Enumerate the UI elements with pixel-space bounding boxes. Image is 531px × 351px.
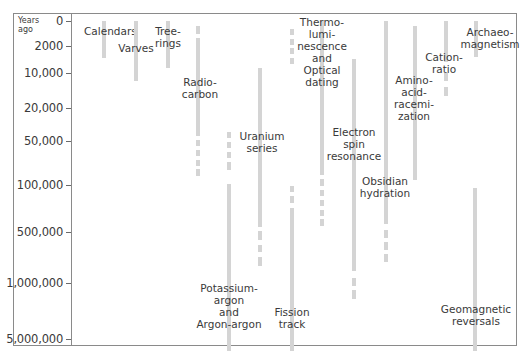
method-label-thermoluminescence-and-optical-dating: Thermo-lumi-nescenceandOpticaldating <box>297 16 347 88</box>
range-bar-uranium-series <box>258 257 262 266</box>
method-label-varves: Varves <box>118 42 153 54</box>
method-label-cation-ratio: Cation-ratio <box>425 51 463 75</box>
range-bar-potassium-argon-and-argon-argon <box>227 142 231 148</box>
method-label-line: Geomagnetic <box>441 303 511 315</box>
range-bar-obsidian-hydration <box>384 230 388 238</box>
method-label-line: magnetism <box>460 38 519 50</box>
method-label-line: resonance <box>327 150 381 162</box>
range-bar-thermoluminescence-and-optical-dating <box>320 210 324 216</box>
method-label-radiocarbon: Radio-carbon <box>182 76 218 100</box>
range-bar-uranium-series <box>258 245 262 252</box>
method-label-electron-spin-resonance: Electronspinresonance <box>327 126 381 162</box>
method-label-line: Tree- <box>155 25 181 37</box>
range-bar-potassium-argon-and-argon-argon <box>227 162 231 170</box>
range-bar-cation-ratio <box>444 87 448 96</box>
method-label-potassium-argon-and-argon-argon: Potassium-argonandArgon-argon <box>196 282 261 330</box>
range-bar-fission-track <box>290 186 294 192</box>
method-label-line: acid- <box>394 86 434 98</box>
method-label-line: rings <box>155 37 181 49</box>
method-label-line: Fission <box>274 306 309 318</box>
range-bar-thermoluminescence-and-optical-dating <box>320 179 324 186</box>
range-bar-thermoluminescence-and-optical-dating <box>320 190 324 196</box>
method-label-line: Uranium <box>240 130 285 142</box>
range-bar-electron-spin-resonance <box>352 290 356 299</box>
method-label-line: ratio <box>425 63 463 75</box>
method-label-calendars: Calendars <box>84 25 137 37</box>
method-label-line: and <box>297 52 347 64</box>
method-label-line: argon <box>196 294 261 306</box>
method-label-archaeomagnetism: Archaeo-magnetism <box>460 26 519 50</box>
method-label-geomagnetic-reversals: Geomagneticreversals <box>441 303 511 327</box>
range-bar-electron-spin-resonance <box>352 59 356 271</box>
method-label-line: lumi- <box>297 28 347 40</box>
range-bar-potassium-argon-and-argon-argon <box>227 152 231 158</box>
method-label-line: Varves <box>118 42 153 54</box>
range-bar-obsidian-hydration <box>384 254 388 262</box>
range-bar-electron-spin-resonance <box>352 278 356 286</box>
range-bar-fission-track <box>290 196 294 203</box>
range-bar-thermoluminescence-and-optical-dating-early-dashes <box>290 48 294 54</box>
method-label-line: series <box>240 142 285 154</box>
method-label-line: hydration <box>360 187 410 199</box>
range-bar-potassium-argon-and-argon-argon <box>227 132 231 138</box>
method-label-line: Thermo- <box>297 16 347 28</box>
method-label-line: nescence <box>297 40 347 52</box>
method-label-line: racemi- <box>394 98 434 110</box>
method-label-line: Obsidian <box>360 175 410 187</box>
range-bar-thermoluminescence-and-optical-dating-early-dashes <box>290 29 294 35</box>
method-label-obsidian-hydration: Obsidianhydration <box>360 175 410 199</box>
range-bar-uranium-series <box>258 231 262 240</box>
range-bar-obsidian-hydration <box>384 242 388 250</box>
method-label-line: spin <box>327 138 381 150</box>
range-bar-radiocarbon <box>196 150 200 156</box>
method-label-tree-rings: Tree-rings <box>155 25 181 49</box>
method-label-line: Potassium- <box>196 282 261 294</box>
range-bar-radiocarbon <box>196 169 200 176</box>
method-label-line: track <box>274 318 309 330</box>
range-bar-thermoluminescence-and-optical-dating <box>320 219 324 226</box>
method-label-line: Amino- <box>394 74 434 86</box>
method-label-line: carbon <box>182 88 218 100</box>
range-bar-thermoluminescence-and-optical-dating <box>320 200 324 206</box>
method-label-fission-track: Fissiontrack <box>274 306 309 330</box>
method-label-line: and <box>196 306 261 318</box>
method-label-line: Radio- <box>182 76 218 88</box>
range-bar-radiocarbon <box>196 140 200 146</box>
method-label-uranium-series: Uraniumseries <box>240 130 285 154</box>
method-label-line: dating <box>297 76 347 88</box>
method-label-line: Argon-argon <box>196 318 261 330</box>
plot-area: CalendarsVarvesTree-ringsRadio-carbonPot… <box>0 0 531 351</box>
method-label-line: zation <box>394 110 434 122</box>
range-bar-radiocarbon <box>196 26 200 34</box>
method-label-line: Calendars <box>84 25 137 37</box>
method-label-line: Cation- <box>425 51 463 63</box>
method-label-line: Archaeo- <box>460 26 519 38</box>
range-bar-radiocarbon <box>196 160 200 166</box>
method-label-line: reversals <box>441 315 511 327</box>
range-bar-thermoluminescence-and-optical-dating-early-dashes <box>290 39 294 45</box>
method-label-line: Electron <box>327 126 381 138</box>
method-label-line: Optical <box>297 64 347 76</box>
range-bar-thermoluminescence-and-optical-dating-early-dashes <box>290 58 294 64</box>
method-label-amino-acid-racemization: Amino-acid-racemi-zation <box>394 74 434 122</box>
